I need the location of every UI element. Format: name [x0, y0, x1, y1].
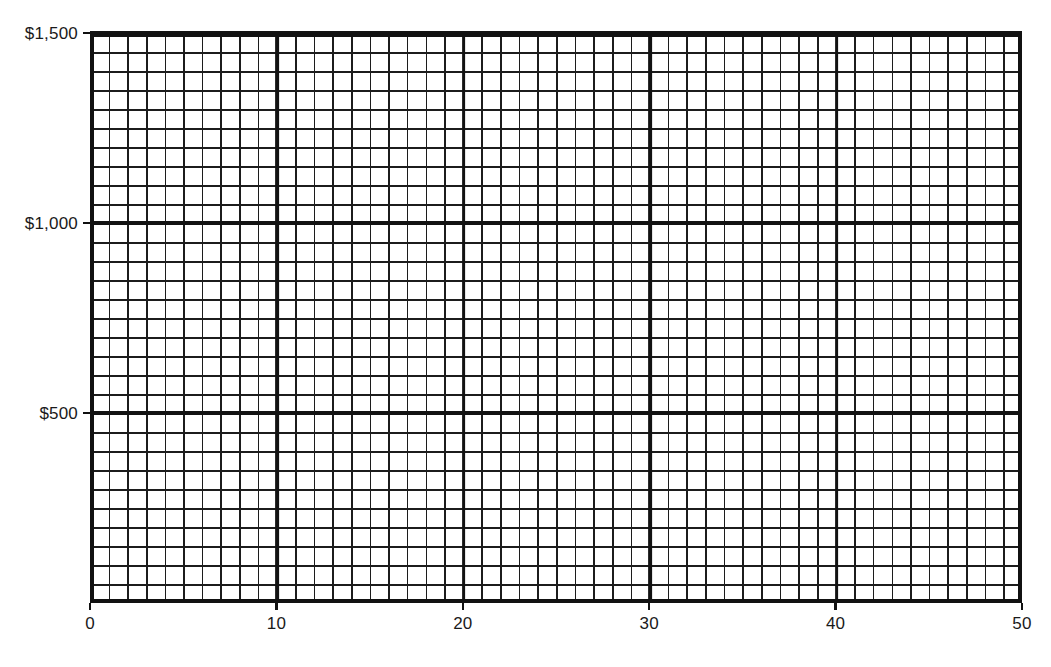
x-tick-mark [89, 603, 91, 610]
x-tick-mark [275, 603, 277, 610]
x-axis-tick-label: 50 [982, 615, 1051, 632]
x-axis-tick-label: 20 [423, 615, 503, 632]
y-axis-tick-label: $1,500 [0, 25, 78, 42]
y-axis-tick-label: $500 [0, 405, 78, 422]
x-tick-mark [834, 603, 836, 610]
major-gridline-horizontal [90, 31, 1022, 34]
x-axis-tick-label: 10 [236, 615, 316, 632]
y-tick-mark [83, 222, 91, 224]
y-tick-mark [83, 412, 91, 414]
x-axis-tick-label: 40 [796, 615, 876, 632]
x-axis-tick-label: 30 [609, 615, 689, 632]
y-tick-mark [83, 32, 91, 34]
y-axis-tick-label: $1,000 [0, 215, 78, 232]
major-gridline-horizontal [90, 221, 1022, 224]
chart-container: $1,500$1,000$500 01020304050 [0, 0, 1051, 667]
x-tick-mark [648, 603, 650, 610]
x-tick-mark [462, 603, 464, 610]
x-axis-tick-label: 0 [50, 615, 130, 632]
plot-area [90, 33, 1022, 603]
major-gridline-horizontal [90, 411, 1022, 414]
major-vertical-gridlines [90, 33, 1022, 603]
x-tick-mark [1021, 603, 1023, 610]
